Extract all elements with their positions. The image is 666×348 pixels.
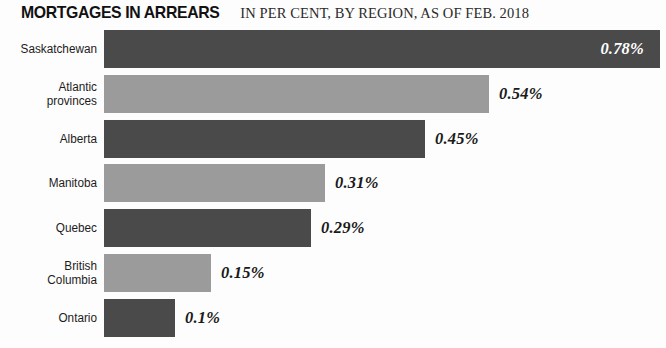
bar-value-label: 0.15%	[221, 254, 265, 292]
chart-row: Alberta0.45%	[0, 120, 666, 158]
chart-row: Quebec0.29%	[0, 209, 666, 247]
chart-row: Saskatchewan0.78%	[0, 30, 666, 68]
mortgages-in-arrears-chart: MORTGAGES IN ARREARS IN PER CENT, BY REG…	[0, 0, 666, 348]
category-label-line: Atlantic	[58, 80, 97, 94]
category-label: Saskatchewan	[6, 30, 97, 68]
bar-value-label: 0.1%	[185, 299, 220, 337]
category-label: Manitoba	[6, 164, 97, 202]
bar	[104, 299, 175, 337]
category-label: Ontario	[6, 299, 97, 337]
category-label-line: Manitoba	[49, 176, 97, 190]
bar-value-label: 0.45%	[435, 120, 479, 158]
chart-subtitle: IN PER CENT, BY REGION, AS OF FEB. 2018	[240, 5, 529, 22]
category-label-line: provinces	[47, 94, 97, 108]
bar-value-label: 0.78%	[600, 30, 644, 68]
category-label-line: Saskatchewan	[21, 42, 97, 56]
chart-row: Atlanticprovinces0.54%	[0, 75, 666, 113]
bar-value-label: 0.31%	[335, 164, 379, 202]
category-label-line: Columbia	[47, 273, 97, 287]
category-label: Alberta	[6, 120, 97, 158]
category-label-line: Alberta	[60, 132, 97, 146]
chart-row: BritishColumbia0.15%	[0, 254, 666, 292]
chart-header: MORTGAGES IN ARREARS IN PER CENT, BY REG…	[21, 3, 661, 25]
category-label-line: British	[64, 259, 97, 273]
page-title: MORTGAGES IN ARREARS	[21, 3, 219, 23]
category-label-line: Ontario	[58, 311, 97, 325]
bar	[104, 30, 660, 68]
category-label: BritishColumbia	[6, 254, 97, 292]
chart-row: Manitoba0.31%	[0, 164, 666, 202]
category-label: Atlanticprovinces	[6, 75, 97, 113]
category-label: Quebec	[6, 209, 97, 247]
bar	[104, 164, 325, 202]
bar-value-label: 0.29%	[321, 209, 365, 247]
bar	[104, 75, 489, 113]
bar	[104, 209, 311, 247]
chart-row: Ontario0.1%	[0, 299, 666, 337]
bar-chart-plot-area: Saskatchewan0.78%Atlanticprovinces0.54%A…	[0, 30, 666, 348]
category-label-line: Quebec	[56, 221, 97, 235]
bar	[104, 254, 211, 292]
bar	[104, 120, 425, 158]
bar-value-label: 0.54%	[499, 75, 543, 113]
